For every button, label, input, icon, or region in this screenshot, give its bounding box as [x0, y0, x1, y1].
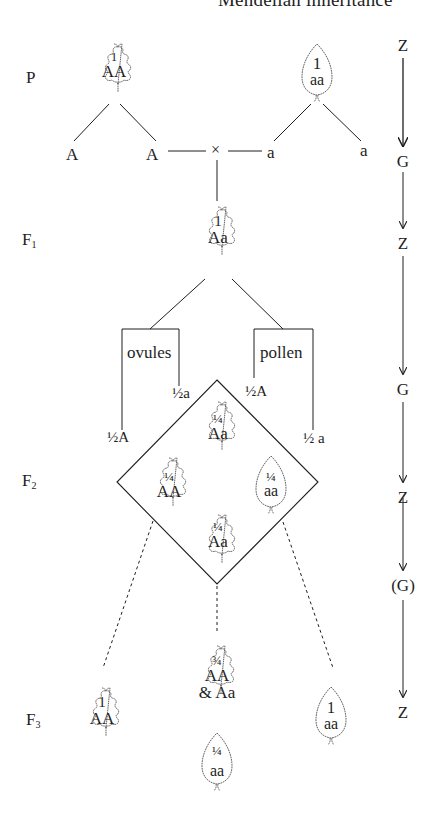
- ovule-gamete-a: ½a: [172, 386, 190, 401]
- pollen-gamete-a: ½ a: [303, 431, 325, 446]
- gamete-right-1: a: [267, 144, 275, 161]
- f2-left-genotype: AA: [157, 483, 182, 500]
- f3-center-bottom-leaf: ¼ aa: [210, 744, 224, 779]
- f2-left-leaf: ¼ AA: [157, 470, 182, 500]
- f1-leaf: 1 Aa: [208, 214, 228, 246]
- f2-top-genotype: Aa: [208, 425, 228, 442]
- cross-symbol: ×: [211, 142, 220, 158]
- f2-bottom-genotype: Aa: [208, 533, 228, 550]
- pollen-label: pollen: [260, 344, 303, 361]
- life-cycle-stage-3: Z: [398, 235, 408, 252]
- generation-label-f1: F1: [22, 231, 36, 250]
- gamete-right-2: a: [360, 142, 368, 159]
- parent-left-genotype: AA: [102, 63, 127, 80]
- pollen-gamete-A: ½A: [245, 384, 267, 399]
- life-cycle-stage-7: Z: [398, 704, 408, 721]
- mendelian-inheritance-diagram: Mendelian inheritance P F1 F2 F3 1 AA 1 …: [0, 0, 435, 813]
- f3-right-genotype: aa: [324, 716, 338, 732]
- parent-right-fraction: 1: [310, 55, 324, 72]
- life-cycle-stage-5: Z: [398, 489, 408, 506]
- gamete-left-1: A: [66, 146, 78, 163]
- life-cycle-stage-1: Z: [398, 37, 408, 54]
- life-cycle-stage-2: G: [397, 153, 409, 170]
- generation-label-p: P: [26, 69, 35, 86]
- parent-right-leaf: 1 aa: [310, 55, 324, 88]
- page-title: Mendelian inheritance: [218, 0, 393, 9]
- f3-center-bottom-fraction: ¼: [210, 744, 224, 757]
- f3-center-top-genotype-2: & Aa: [199, 684, 235, 701]
- gamete-left-2: A: [146, 146, 158, 163]
- generation-label-f2: F2: [22, 472, 36, 491]
- f2-top-leaf: ¼ Aa: [208, 412, 228, 442]
- f1-genotype: Aa: [208, 229, 228, 246]
- f3-center-bottom-genotype: aa: [210, 763, 224, 779]
- f3-left-genotype: AA: [90, 710, 115, 727]
- f3-right-fraction: 1: [324, 700, 338, 716]
- f3-left-fraction: 1: [90, 695, 115, 710]
- f2-bottom-leaf: ¼ Aa: [208, 520, 228, 550]
- ovules-label: ovules: [127, 344, 171, 361]
- f3-left-leaf: 1 AA: [90, 695, 115, 727]
- f3-center-top-genotype: AA: [199, 667, 235, 684]
- parent-right-genotype: aa: [310, 72, 324, 88]
- ovule-gamete-A: ½A: [107, 430, 129, 445]
- f2-right-leaf: ¼ aa: [264, 470, 278, 499]
- life-cycle-stage-6: (G): [391, 577, 415, 594]
- life-cycle-stage-4: G: [397, 381, 409, 398]
- f3-right-leaf: 1 aa: [324, 700, 338, 732]
- f3-center-top-leaf: ¾ AA & Aa: [199, 654, 235, 701]
- generation-label-f3: F3: [26, 711, 40, 730]
- parent-left-leaf: 1 AA: [102, 50, 127, 80]
- f1-fraction: 1: [208, 214, 228, 229]
- f2-right-genotype: aa: [264, 483, 278, 499]
